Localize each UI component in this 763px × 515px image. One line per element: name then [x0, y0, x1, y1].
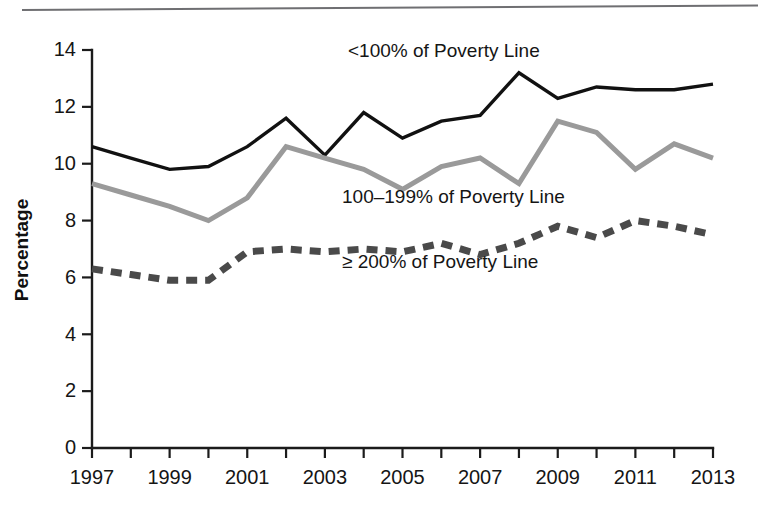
y-axis-title: Percentage [11, 199, 32, 301]
y-axis-group: 02468101214 [54, 38, 92, 458]
x-tick-label: 2009 [536, 466, 581, 488]
y-tick-label: 0 [65, 436, 76, 458]
series-group [92, 73, 713, 281]
x-tick-label: 2013 [691, 466, 736, 488]
series-label-under-100: <100% of Poverty Line [348, 40, 540, 61]
y-tick-label: 10 [54, 152, 76, 174]
x-tick-label: 2007 [458, 466, 503, 488]
x-tick-label: 2005 [380, 466, 425, 488]
x-tick-label: 1997 [70, 466, 115, 488]
x-tick-label: 1999 [147, 466, 192, 488]
line-chart: 02468101214 1997199920012003200520072009… [0, 0, 763, 515]
y-tick-label: 8 [65, 209, 76, 231]
x-axis-group: 199719992001200320052007200920112013 [70, 448, 736, 488]
x-tick-label: 2011 [614, 466, 657, 488]
series-label-100-199: 100–199% of Poverty Line [342, 186, 565, 207]
y-tick-label: 6 [65, 266, 76, 288]
y-tick-label: 14 [54, 38, 76, 60]
x-tick-label: 2001 [225, 466, 270, 488]
series-label-over-200: ≥ 200% of Poverty Line [342, 251, 538, 272]
figure-container: 02468101214 1997199920012003200520072009… [0, 0, 763, 515]
x-tick-label: 2003 [303, 466, 348, 488]
y-tick-label: 4 [65, 323, 76, 345]
y-tick-label: 2 [65, 379, 76, 401]
y-tick-label: 12 [54, 95, 76, 117]
